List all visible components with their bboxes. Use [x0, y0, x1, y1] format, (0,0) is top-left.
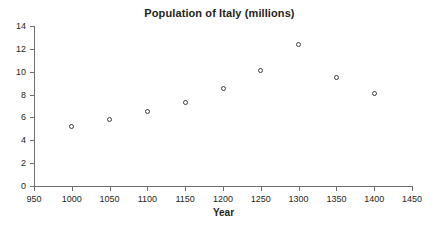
data-point: [107, 117, 112, 122]
y-tick-label: 10: [2, 68, 26, 77]
data-point: [69, 124, 74, 129]
x-tick-label: 1250: [241, 194, 281, 204]
x-tick-label: 1150: [165, 194, 205, 204]
x-tick-label: 1050: [90, 194, 130, 204]
data-point: [334, 75, 339, 80]
y-tick-label: 4: [2, 136, 26, 145]
y-tick-label: 6: [2, 113, 26, 122]
data-point: [296, 42, 301, 47]
plot-area: [34, 26, 412, 186]
x-tick-mark: [185, 187, 186, 191]
data-point: [183, 100, 188, 105]
chart-figure: Population of Italy (millions) 024681012…: [0, 0, 439, 228]
x-tick-label: 1350: [316, 194, 356, 204]
y-tick-label: 14: [2, 22, 26, 31]
data-point: [372, 91, 377, 96]
x-tick-mark: [336, 187, 337, 191]
x-tick-mark: [147, 187, 148, 191]
x-tick-mark: [223, 187, 224, 191]
y-tick-label: 0: [2, 182, 26, 191]
x-tick-mark: [374, 187, 375, 191]
y-tick-label: 12: [2, 45, 26, 54]
x-tick-label: 1000: [52, 194, 92, 204]
chart-title: Population of Italy (millions): [0, 7, 439, 19]
x-tick-label: 1400: [354, 194, 394, 204]
x-tick-mark: [72, 187, 73, 191]
x-axis-label: Year: [34, 207, 413, 218]
data-point: [145, 109, 150, 114]
data-point: [221, 86, 226, 91]
y-tick-label: 2: [2, 159, 26, 168]
x-tick-label: 1100: [127, 194, 167, 204]
x-tick-label: 950: [14, 194, 54, 204]
x-tick-label: 1450: [392, 194, 432, 204]
y-tick-label: 8: [2, 91, 26, 100]
data-point: [258, 68, 263, 73]
x-tick-label: 1300: [279, 194, 319, 204]
x-tick-mark: [261, 187, 262, 191]
x-tick-mark: [299, 187, 300, 191]
x-tick-label: 1200: [203, 194, 243, 204]
x-tick-mark: [110, 187, 111, 191]
x-tick-mark: [412, 187, 413, 191]
x-tick-mark: [34, 187, 35, 191]
